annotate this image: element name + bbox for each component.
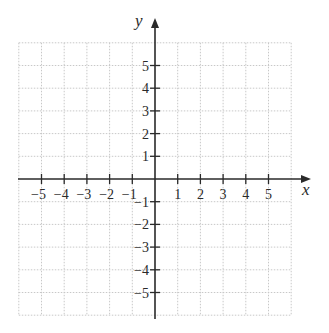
- x-axis-label: x: [301, 180, 310, 199]
- x-tick-label: −4: [54, 187, 69, 202]
- x-tick-label: 3: [220, 187, 227, 202]
- y-tick-label: 4: [142, 81, 149, 96]
- y-tick-label: −3: [134, 240, 149, 255]
- y-tick-label: 5: [142, 59, 149, 74]
- axes: [18, 18, 311, 319]
- y-tick-label: −5: [134, 286, 149, 301]
- x-tick-label: −3: [76, 187, 91, 202]
- x-tick-label: −2: [99, 187, 114, 202]
- coordinate-plane-svg: −5−4−3−2−11234554321−1−2−3−4−5 x y: [0, 0, 329, 333]
- x-tick-label: 5: [265, 187, 272, 202]
- coordinate-plane: −5−4−3−2−11234554321−1−2−3−4−5 x y: [0, 0, 329, 333]
- x-tick-label: 4: [242, 187, 249, 202]
- y-tick-label: 3: [142, 104, 149, 119]
- x-tick-label: 2: [197, 187, 204, 202]
- y-tick-label: −2: [134, 217, 149, 232]
- y-tick-label: −1: [134, 195, 149, 210]
- y-axis-label: y: [133, 11, 143, 30]
- y-tick-label: 1: [142, 149, 149, 164]
- y-axis-arrow-icon: [151, 18, 159, 28]
- x-tick-label: 1: [174, 187, 181, 202]
- y-tick-label: 2: [142, 127, 149, 142]
- y-tick-label: −4: [134, 263, 149, 278]
- x-tick-label: −5: [31, 187, 46, 202]
